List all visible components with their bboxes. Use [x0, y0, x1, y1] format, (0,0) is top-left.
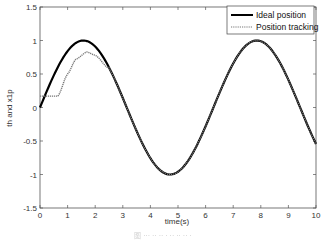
legend-label-ideal: Ideal position	[256, 10, 306, 20]
series-ideal-position	[40, 41, 316, 175]
x-tick-label: 3	[121, 211, 126, 220]
y-axis-label: th and x1p	[5, 89, 14, 127]
x-tick-label: 10	[312, 211, 321, 220]
plot-frame	[40, 7, 316, 208]
series-position-tracking	[40, 41, 316, 175]
x-tick-label: 8	[259, 211, 264, 220]
y-tick-label: -0.5	[23, 137, 37, 146]
y-tick-label: -1	[30, 171, 38, 180]
x-axis-label: time(s)	[165, 217, 190, 226]
legend-label-tracking: Position tracking	[256, 22, 319, 32]
x-tick-label: 2	[93, 211, 98, 220]
series-layer	[40, 41, 316, 175]
figure-caption: 图 ··· ·· ·· · ·· ·· ·· ·	[0, 230, 326, 240]
axes: 012345678910-1.5-1-0.500.511.5	[23, 3, 321, 220]
x-tick-label: 6	[203, 211, 208, 220]
x-tick-label: 4	[148, 211, 153, 220]
legend: Ideal position Position tracking	[227, 6, 319, 34]
y-tick-label: -1.5	[23, 204, 37, 213]
y-tick-label: 1	[33, 37, 38, 46]
y-tick-label: 1.5	[26, 3, 38, 12]
x-tick-label: 0	[38, 211, 43, 220]
y-tick-label: 0	[33, 104, 38, 113]
x-tick-label: 9	[286, 211, 291, 220]
line-chart: 012345678910-1.5-1-0.500.511.5 Ideal pos…	[0, 0, 326, 242]
x-tick-label: 7	[231, 211, 236, 220]
y-tick-label: 0.5	[26, 70, 38, 79]
x-tick-label: 1	[65, 211, 70, 220]
